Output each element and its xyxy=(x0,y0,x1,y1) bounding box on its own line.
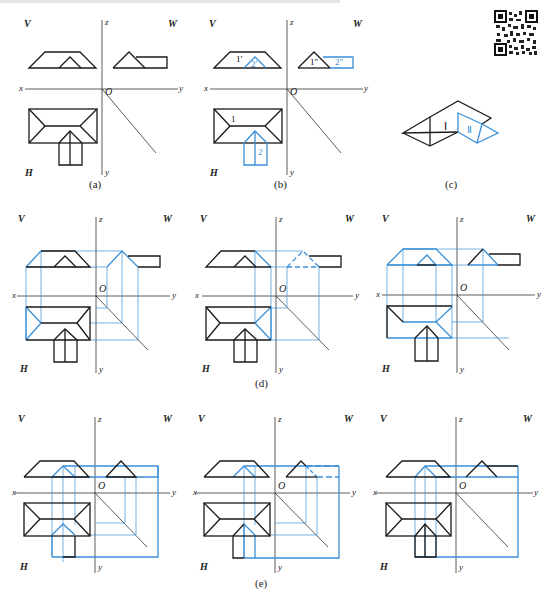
v-plane-label: V xyxy=(18,213,25,224)
panel-e1: V W H z x y y O xyxy=(0,395,185,595)
v-plane-label: V xyxy=(382,213,389,224)
origin-label: O xyxy=(459,480,466,491)
x-axis-label: x xyxy=(195,290,199,300)
point-1-side: 1″ xyxy=(310,57,318,67)
w-plane-label: W xyxy=(344,413,353,424)
part-2-label: Ⅱ xyxy=(467,124,472,135)
origin-label: O xyxy=(460,282,467,293)
point-2-top: 2 xyxy=(258,147,263,157)
y-axis-h-label: y xyxy=(460,364,464,374)
x-axis-label: x xyxy=(19,83,23,93)
z-axis-label: z xyxy=(105,17,109,27)
w-plane-label: W xyxy=(345,213,354,224)
origin-label: O xyxy=(105,86,112,97)
origin-label: O xyxy=(290,86,297,97)
w-plane-label: W xyxy=(523,413,532,424)
caption-e: (e) xyxy=(255,577,267,589)
x-axis-label: x xyxy=(12,290,16,300)
y-axis-label: y xyxy=(537,289,541,299)
origin-label: O xyxy=(278,480,285,491)
y-axis-label: y xyxy=(172,487,176,497)
caption-b: (b) xyxy=(274,178,287,190)
panel-e2: V W H z x y y O (e) xyxy=(185,395,370,595)
z-axis-label: z xyxy=(460,214,464,224)
y-axis-h-label: y xyxy=(99,364,103,374)
panel-d1: V W H z x y y O xyxy=(0,195,185,395)
origin-label: O xyxy=(99,283,106,294)
x-axis-label: x xyxy=(376,289,380,299)
caption-c: (c) xyxy=(445,178,457,190)
y-axis-h-label: y xyxy=(105,167,109,177)
v-plane-label: V xyxy=(198,413,205,424)
panel-c: Ⅰ Ⅱ (c) xyxy=(370,0,555,200)
point-2-front: 2′ xyxy=(251,59,257,69)
h-plane-label: H xyxy=(210,167,218,178)
h-plane-label: H xyxy=(20,363,28,374)
caption-a: (a) xyxy=(89,178,101,190)
caption-d: (d) xyxy=(255,377,268,389)
y-axis-h-label: y xyxy=(290,167,294,177)
three-view-drawing-d2 xyxy=(185,195,370,395)
z-axis-label: z xyxy=(278,414,282,424)
h-plane-label: H xyxy=(380,561,388,572)
y-axis-label: y xyxy=(364,83,368,93)
v-plane-label: V xyxy=(24,18,31,29)
v-plane-label: V xyxy=(209,18,216,29)
origin-label: O xyxy=(98,480,105,491)
h-plane-label: H xyxy=(200,561,208,572)
w-plane-label: W xyxy=(353,18,362,29)
origin-label: O xyxy=(279,283,286,294)
panel-a: V W H z x y y O (a) xyxy=(0,0,185,200)
y-axis-h-label: y xyxy=(278,562,282,572)
h-plane-label: H xyxy=(202,363,210,374)
point-1-front: 1′ xyxy=(236,54,242,64)
h-plane-label: H xyxy=(20,561,28,572)
panel-d3: V W H z x y y O xyxy=(370,195,555,395)
panel-e3: V W H z x y y O xyxy=(370,395,555,595)
w-plane-label: W xyxy=(163,413,172,424)
z-axis-label: z xyxy=(459,414,463,424)
y-axis-h-label: y xyxy=(279,364,283,374)
h-plane-label: H xyxy=(25,167,33,178)
y-axis-h-label: y xyxy=(459,562,463,572)
y-axis-h-label: y xyxy=(98,562,102,572)
part-1-label: Ⅰ xyxy=(444,120,447,133)
z-axis-label: z xyxy=(98,414,102,424)
y-axis-label: y xyxy=(534,487,538,497)
point-1-top: 1 xyxy=(231,114,236,124)
w-plane-label: W xyxy=(168,18,177,29)
isometric-sketch-c xyxy=(370,0,555,200)
x-axis-label: x xyxy=(204,83,208,93)
panel-b: 1′ 2′ 1″ 2″ 1 2 V W H z x y y O (b) xyxy=(185,0,370,200)
y-axis-label: y xyxy=(355,290,359,300)
v-plane-label: V xyxy=(18,413,25,424)
y-axis-label: y xyxy=(352,487,356,497)
v-plane-label: V xyxy=(200,213,207,224)
x-axis-label: x xyxy=(373,487,377,497)
x-axis-label: x xyxy=(12,487,16,497)
w-plane-label: W xyxy=(526,213,535,224)
z-axis-label: z xyxy=(279,214,283,224)
w-plane-label: W xyxy=(163,213,172,224)
panel-d2: V W H z x y y O (d) xyxy=(185,195,370,395)
y-axis-label: y xyxy=(179,83,183,93)
h-plane-label: H xyxy=(382,363,390,374)
y-axis-label: y xyxy=(172,290,176,300)
x-axis-label: x xyxy=(193,487,197,497)
point-2-side: 2″ xyxy=(335,57,343,67)
z-axis-label: z xyxy=(290,17,294,27)
v-plane-label: V xyxy=(380,413,387,424)
z-axis-label: z xyxy=(99,214,103,224)
